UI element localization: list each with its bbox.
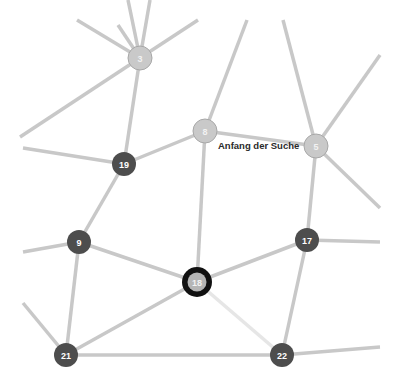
graph-node-21[interactable]: 21	[54, 343, 78, 367]
graph-node-5[interactable]: 5	[304, 134, 328, 158]
node-label: 8	[202, 127, 207, 137]
graph-edge	[307, 146, 316, 240]
node-label: 21	[61, 351, 71, 361]
graph-canvas: 38519917182122 Anfang der Suche	[0, 0, 401, 388]
graph-node-17[interactable]: 17	[295, 228, 319, 252]
graph-edge	[23, 148, 124, 164]
graph-node-22[interactable]: 22	[270, 343, 294, 367]
graph-node-19[interactable]: 19	[112, 152, 136, 176]
graph-node-8[interactable]: 8	[193, 119, 217, 143]
graph-edge	[205, 20, 247, 131]
node-label: 18	[192, 278, 202, 288]
graph-edge	[124, 131, 205, 164]
graph-edge	[282, 240, 307, 355]
node-label: 17	[302, 236, 312, 246]
graph-edge	[66, 282, 197, 355]
node-label: 19	[119, 160, 129, 170]
graph-node-18[interactable]: 18	[182, 267, 212, 297]
graph-edge	[197, 240, 307, 282]
node-label: 9	[76, 238, 81, 248]
graph-edge	[197, 282, 282, 355]
node-label: 22	[277, 351, 287, 361]
graph-edge	[316, 146, 380, 208]
graph-edge	[316, 55, 380, 146]
graph-edge	[197, 131, 205, 282]
graph-edge	[20, 58, 140, 137]
node-label: 5	[313, 142, 318, 152]
graph-edge	[282, 347, 380, 355]
graph-node-9[interactable]: 9	[67, 230, 91, 254]
node-label: 3	[137, 54, 142, 64]
graph-edge	[66, 242, 79, 355]
graph-edge	[283, 20, 316, 146]
graph-edge	[79, 164, 124, 242]
edges-layer	[20, 0, 380, 355]
graph-node-3[interactable]: 3	[128, 46, 152, 70]
search-start-label: Anfang der Suche	[218, 140, 299, 151]
graph-edge	[124, 58, 140, 164]
nodes-layer: 38519917182122	[54, 46, 328, 367]
graph-edge	[79, 242, 197, 282]
